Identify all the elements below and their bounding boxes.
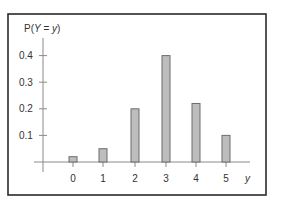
bar-4 — [192, 103, 200, 162]
bar-2 — [131, 109, 139, 162]
x-axis: 012345 — [34, 162, 250, 184]
y-tick-label: 0.4 — [19, 50, 33, 61]
x-tick-label: 0 — [70, 173, 76, 184]
y-tick-label: 0.2 — [19, 103, 33, 114]
bars — [69, 56, 230, 162]
y-tick-label: 0.1 — [19, 130, 33, 141]
bar-0 — [69, 157, 77, 162]
chart-frame — [8, 14, 266, 195]
y-axis-label: P(Y = y) — [24, 23, 60, 34]
y-tick-label: 0.3 — [19, 77, 33, 88]
x-tick-label: 5 — [223, 173, 229, 184]
bar-3 — [162, 56, 170, 162]
y-axis: 0.10.20.30.4 — [19, 38, 47, 172]
bar-5 — [222, 135, 230, 162]
x-tick-label: 4 — [193, 173, 199, 184]
x-tick-label: 1 — [100, 173, 106, 184]
x-tick-label: 2 — [132, 173, 138, 184]
x-axis-label: y — [244, 173, 251, 184]
chart: 0.10.20.30.4 012345 P(Y = y) y — [0, 0, 285, 204]
x-tick-label: 3 — [163, 173, 169, 184]
bar-1 — [99, 149, 107, 162]
